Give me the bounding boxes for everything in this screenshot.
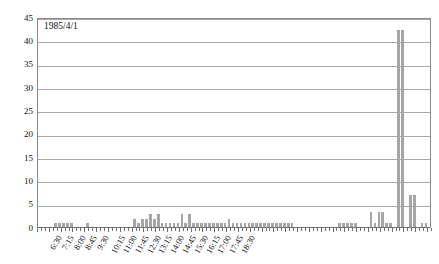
x-axis-labels: 6:307:158:008:459:3010:1511:0011:4512:30… xyxy=(0,0,439,264)
chart-title: 1985/4/1 xyxy=(44,21,78,32)
bar-chart: 051015202530354045 6:307:158:008:459:301… xyxy=(0,0,439,264)
